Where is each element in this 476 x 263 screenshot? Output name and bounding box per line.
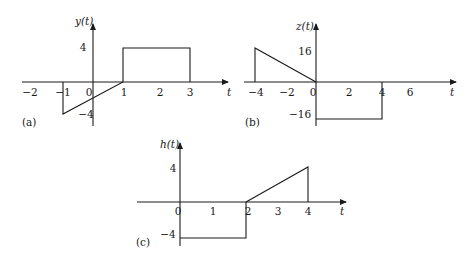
- panel-b-xtick: 4: [379, 86, 386, 98]
- panel-b-xtick: −2: [279, 86, 294, 98]
- panel-a-xtick: −1: [55, 86, 70, 98]
- panel-a-y-of-t: y(t) 4 −4 −2 −1 0 1 2 3 t (a): [22, 15, 232, 128]
- panel-c-xtick: 4: [305, 205, 312, 217]
- panel-b-xtick: 6: [407, 86, 414, 98]
- panel-b-xtick: 2: [346, 86, 353, 98]
- panel-c-xtick: 3: [275, 205, 282, 217]
- panel-b-xtick: −4: [248, 86, 264, 98]
- panel-b-z-of-t: z(t) 16 −16 −4 −2 0 2 4 6 t (b): [244, 20, 456, 128]
- panel-b-xtick: 0: [310, 86, 317, 98]
- panel-a-xtick: 1: [121, 86, 128, 98]
- panel-a-xtick: 3: [187, 86, 194, 98]
- panel-b-ytick-neg16: −16: [289, 108, 311, 120]
- panel-b-ytick-16: 16: [298, 45, 312, 57]
- panel-c-ylabel: h(t): [160, 138, 179, 150]
- panel-c-signal-ramp: [246, 167, 308, 202]
- panel-a-tlabel: t: [227, 86, 232, 98]
- panel-c-ytick-neg4: −4: [160, 228, 176, 240]
- panel-a-xtick: −2: [22, 86, 37, 98]
- panel-c-caption: (c): [136, 236, 150, 248]
- panel-a-caption: (a): [22, 116, 36, 128]
- panel-a-ytick-neg4: −4: [78, 108, 94, 120]
- panel-c-xtick: 2: [245, 205, 252, 217]
- signals-diagram: y(t) 4 −4 −2 −1 0 1 2 3 t (a) z(t) 16 −1…: [0, 0, 476, 263]
- panel-c-ytick-4: 4: [170, 162, 177, 174]
- panel-c-tlabel: t: [340, 205, 345, 217]
- panel-b-tlabel: t: [450, 86, 455, 98]
- panel-b-ylabel: z(t): [295, 20, 314, 32]
- panel-c-h-of-t: h(t) 4 −4 0 1 2 3 4 t (c): [136, 138, 346, 248]
- panel-a-ytick-4: 4: [80, 41, 87, 53]
- panel-c-xtick: 0: [175, 205, 182, 217]
- panel-a-xtick: 0: [86, 86, 93, 98]
- panel-a-signal: [63, 48, 190, 114]
- panel-a-xtick: 2: [157, 86, 164, 98]
- panel-a-ylabel: y(t): [74, 15, 93, 27]
- panel-c-xtick: 1: [210, 205, 217, 217]
- panel-b-caption: (b): [245, 116, 260, 128]
